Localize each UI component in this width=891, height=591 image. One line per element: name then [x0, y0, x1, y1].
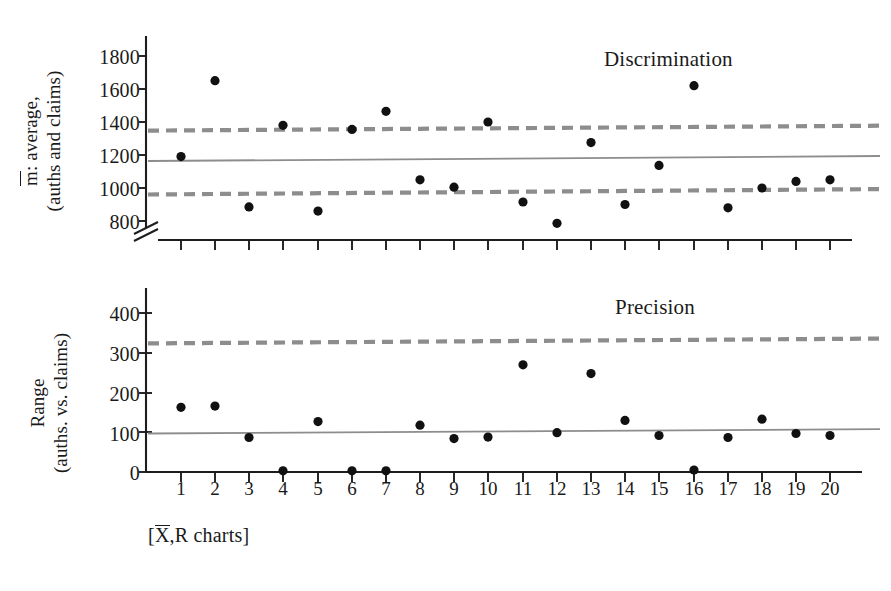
bottom-point-8	[415, 421, 424, 430]
bottom-data-points	[176, 360, 834, 475]
bottom-point-5	[313, 417, 322, 426]
bottom-point-17	[723, 433, 732, 442]
top-point-4	[278, 121, 287, 130]
top-point-10	[483, 117, 492, 126]
top-point-17	[723, 203, 732, 212]
xtick-label-18: 18	[747, 478, 777, 500]
bottom-panel-plot	[0, 280, 891, 510]
top-upper-control-limit	[148, 126, 880, 131]
top-lower-control-limit	[148, 189, 880, 194]
bottom-center-line	[148, 429, 880, 433]
caption-bracket-open: [	[148, 524, 155, 546]
xtick-label-7: 7	[371, 478, 401, 500]
xtick-label-1: 1	[166, 478, 196, 500]
bottom-point-18	[757, 415, 766, 424]
top-point-20	[825, 175, 834, 184]
bottom-point-4	[278, 466, 287, 475]
xtick-label-6: 6	[337, 478, 367, 500]
bottom-point-2	[210, 402, 219, 411]
xtick-label-15: 15	[644, 478, 674, 500]
top-x-ticks	[181, 240, 830, 250]
top-point-3	[244, 202, 253, 211]
xtick-label-19: 19	[781, 478, 811, 500]
caption-rest: ,R charts]	[170, 524, 250, 546]
top-point-7	[381, 107, 390, 116]
bottom-point-10	[483, 433, 492, 442]
top-point-12	[552, 219, 561, 228]
top-center-line	[148, 156, 880, 161]
top-panel-plot	[0, 0, 891, 300]
top-data-points	[176, 76, 834, 228]
xtick-label-5: 5	[303, 478, 333, 500]
bottom-point-1	[176, 403, 185, 412]
top-point-8	[415, 175, 424, 184]
xtick-label-9: 9	[439, 478, 469, 500]
bottom-point-11	[518, 360, 527, 369]
xtick-label-14: 14	[610, 478, 640, 500]
top-point-9	[449, 183, 458, 192]
bottom-point-20	[825, 431, 834, 440]
bottom-point-13	[586, 369, 595, 378]
x-bar-overbar: X	[155, 524, 170, 547]
top-point-6	[347, 125, 356, 134]
bottom-point-6	[347, 466, 356, 475]
xtick-label-12: 12	[542, 478, 572, 500]
xtick-label-11: 11	[508, 478, 538, 500]
figure-caption: [X,R charts]	[148, 524, 249, 547]
bottom-point-7	[381, 466, 390, 475]
xtick-label-20: 20	[815, 478, 845, 500]
control-chart-figure: m: average, (auths and claims) Discrimin…	[0, 0, 891, 591]
xtick-label-2: 2	[200, 478, 230, 500]
top-point-19	[791, 177, 800, 186]
bottom-point-19	[791, 429, 800, 438]
bottom-point-9	[449, 434, 458, 443]
top-point-11	[518, 197, 527, 206]
top-point-18	[757, 183, 766, 192]
top-point-14	[620, 200, 629, 209]
top-point-5	[313, 207, 322, 216]
bottom-point-3	[244, 433, 253, 442]
xtick-label-16: 16	[679, 478, 709, 500]
top-point-15	[654, 161, 663, 170]
xtick-label-10: 10	[473, 478, 503, 500]
bottom-point-14	[620, 416, 629, 425]
top-point-16	[689, 81, 698, 90]
bottom-point-15	[654, 431, 663, 440]
xtick-label-3: 3	[234, 478, 264, 500]
top-point-2	[210, 76, 219, 85]
xtick-label-4: 4	[268, 478, 298, 500]
xtick-label-8: 8	[405, 478, 435, 500]
bottom-upper-control-limit	[148, 339, 880, 344]
xtick-label-17: 17	[713, 478, 743, 500]
bottom-point-12	[552, 428, 561, 437]
xtick-label-13: 13	[576, 478, 606, 500]
top-point-1	[176, 152, 185, 161]
bottom-point-16	[689, 465, 698, 474]
top-point-13	[586, 138, 595, 147]
